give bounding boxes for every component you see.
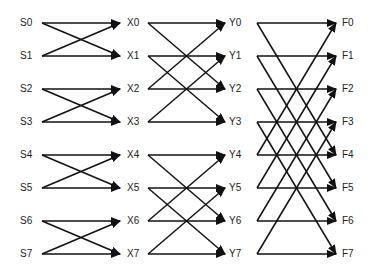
node-label-f5: F5 [342,182,354,194]
node-label-s7: S7 [20,248,32,260]
node-label-x7: X7 [127,248,139,260]
node-label-s0: S0 [20,17,32,29]
node-label-x5: X5 [127,182,139,194]
node-label-y3: Y3 [229,116,241,128]
node-label-x2: X2 [127,83,139,95]
node-label-y4: Y4 [229,149,241,161]
node-label-f3: F3 [342,116,354,128]
node-label-y5: Y5 [229,182,241,194]
node-label-f2: F2 [342,83,354,95]
node-label-x1: X1 [127,50,139,62]
node-label-x4: X4 [127,149,139,161]
node-label-s1: S1 [20,50,32,62]
node-label-s4: S4 [20,149,32,161]
node-label-s5: S5 [20,182,32,194]
node-label-y7: Y7 [229,248,241,260]
node-label-f4: F4 [342,149,354,161]
butterfly-diagram: S0S1S2S3S4S5S6S7X0X1X2X3X4X5X6X7Y0Y1Y2Y3… [0,0,372,276]
node-label-y0: Y0 [229,17,241,29]
node-label-x6: X6 [127,215,139,227]
node-label-y6: Y6 [229,215,241,227]
node-label-f6: F6 [342,215,354,227]
node-label-s2: S2 [20,83,32,95]
node-label-f7: F7 [342,248,354,260]
node-label-s6: S6 [20,215,32,227]
node-label-y1: Y1 [229,50,241,62]
node-label-f1: F1 [342,50,354,62]
connection-lines [0,0,372,276]
node-label-y2: Y2 [229,83,241,95]
node-label-s3: S3 [20,116,32,128]
node-label-f0: F0 [342,17,354,29]
node-label-x0: X0 [127,17,139,29]
node-label-x3: X3 [127,116,139,128]
